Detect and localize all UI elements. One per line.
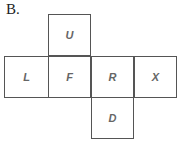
face-back: X — [134, 56, 177, 98]
face-right: R — [91, 56, 134, 98]
face-front: F — [48, 56, 91, 98]
face-up: U — [48, 14, 91, 56]
figure-label: B. — [6, 1, 20, 18]
face-down: D — [91, 97, 134, 139]
face-left: L — [4, 56, 49, 98]
